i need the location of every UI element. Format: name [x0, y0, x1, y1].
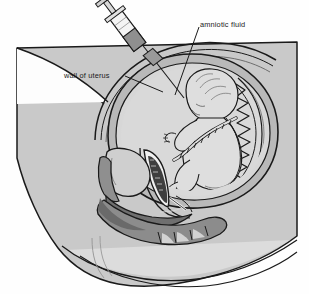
amniocentesis-illustration: amniotic fluid wall of uterus: [0, 0, 309, 294]
illustration-canvas: [0, 0, 309, 294]
label-amniotic-fluid: amniotic fluid: [200, 21, 245, 28]
label-wall-of-uterus: wall of uterus: [64, 72, 110, 79]
